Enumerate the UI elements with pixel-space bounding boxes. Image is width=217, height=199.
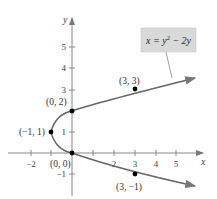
point-0-2 (70, 109, 75, 114)
x-tick-label: 3 (133, 159, 138, 169)
x-tick-label: 5 (174, 159, 179, 169)
point-label: (3, 3) (119, 76, 140, 87)
y-tick-label: 5 (62, 42, 67, 52)
x-tick-label: 4 (154, 159, 159, 169)
x-axis-label: x (200, 156, 206, 167)
x-tick-label: 2 (112, 159, 117, 169)
point-label: (0, 2) (46, 97, 67, 108)
y-tick-label: −1 (56, 169, 66, 179)
point-0-0 (70, 151, 75, 156)
point-label: (−1, 1) (19, 127, 45, 138)
point-label: (0, 0) (50, 159, 71, 170)
parabola-graph: −2 2 3 4 5 5 4 3 1 −1 x y (3, 3) (0, 2) … (0, 0, 217, 199)
x-tick-label: −2 (26, 159, 36, 169)
point-neg1-1 (49, 130, 54, 135)
y-tick-label: 1 (62, 127, 67, 137)
point-label: (3, −1) (116, 182, 142, 193)
point-3-neg1 (133, 172, 138, 177)
y-axis-label: y (62, 14, 68, 25)
y-tick-label: 3 (62, 85, 67, 95)
y-tick-label: 4 (62, 63, 67, 73)
point-3-3 (133, 87, 138, 92)
equation-callout: x = y2 − 2y (141, 28, 196, 78)
parabola-curve-upper (51, 78, 195, 132)
